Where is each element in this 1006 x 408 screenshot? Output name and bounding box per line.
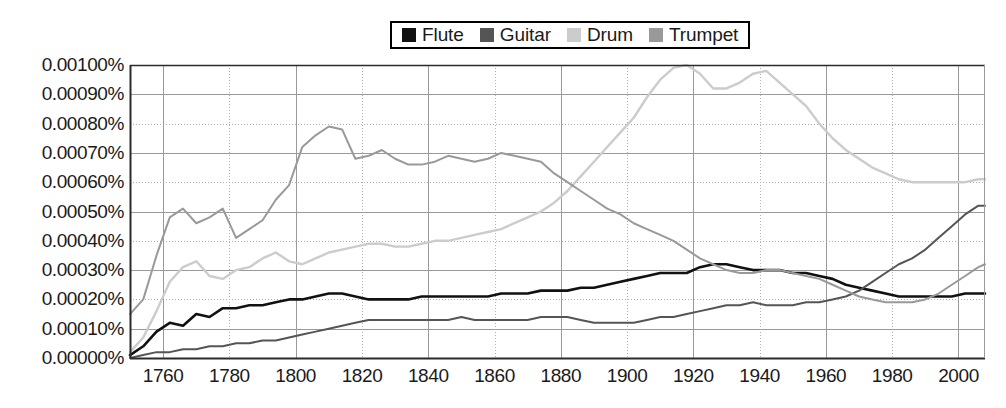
x-tick-label: 1820 <box>327 365 397 387</box>
y-tick-label: 0.00020% <box>28 288 124 310</box>
x-tick-label: 1880 <box>526 365 596 387</box>
x-tick-label: 2000 <box>923 365 993 387</box>
y-tick-label: 0.00000% <box>28 347 124 369</box>
y-tick-label: 0.00070% <box>28 142 124 164</box>
legend-entry-drum[interactable]: Drum <box>567 25 633 45</box>
legend-label: Flute <box>422 25 464 45</box>
chart-legend: FluteGuitarDrumTrumpet <box>390 21 750 49</box>
x-tick-label: 1920 <box>658 365 728 387</box>
x-tick-label: 1960 <box>791 365 861 387</box>
y-tick-label: 0.00030% <box>28 259 124 281</box>
y-tick-label: 0.00010% <box>28 318 124 340</box>
y-tick-label: 0.00040% <box>28 230 124 252</box>
x-tick-label: 1940 <box>725 365 795 387</box>
legend-label: Guitar <box>500 25 551 45</box>
y-tick-label: 0.00100% <box>28 54 124 76</box>
legend-entry-flute[interactable]: Flute <box>402 25 464 45</box>
legend-label: Drum <box>587 25 633 45</box>
x-tick-label: 1780 <box>194 365 264 387</box>
legend-swatch-icon-flute <box>402 28 416 42</box>
x-tick-label: 1800 <box>261 365 331 387</box>
y-tick-label: 0.00050% <box>28 201 124 223</box>
y-tick-label: 0.00060% <box>28 171 124 193</box>
x-tick-label: 1860 <box>460 365 530 387</box>
legend-entry-guitar[interactable]: Guitar <box>480 25 551 45</box>
plot-background <box>130 65 985 358</box>
legend-entry-trumpet[interactable]: Trumpet <box>649 25 738 45</box>
x-tick-label: 1840 <box>393 365 463 387</box>
legend-swatch-icon-trumpet <box>649 28 663 42</box>
ngram-line-chart: FluteGuitarDrumTrumpet 0.00100%0.00090%0… <box>0 0 1006 408</box>
y-tick-label: 0.00080% <box>28 113 124 135</box>
x-tick-label: 1900 <box>592 365 662 387</box>
y-tick-label: 0.00090% <box>28 83 124 105</box>
x-tick-label: 1980 <box>857 365 927 387</box>
legend-swatch-icon-guitar <box>480 28 494 42</box>
legend-swatch-icon-drum <box>567 28 581 42</box>
legend-label: Trumpet <box>669 25 738 45</box>
chart-canvas <box>0 0 1006 408</box>
x-tick-label: 1760 <box>128 365 198 387</box>
